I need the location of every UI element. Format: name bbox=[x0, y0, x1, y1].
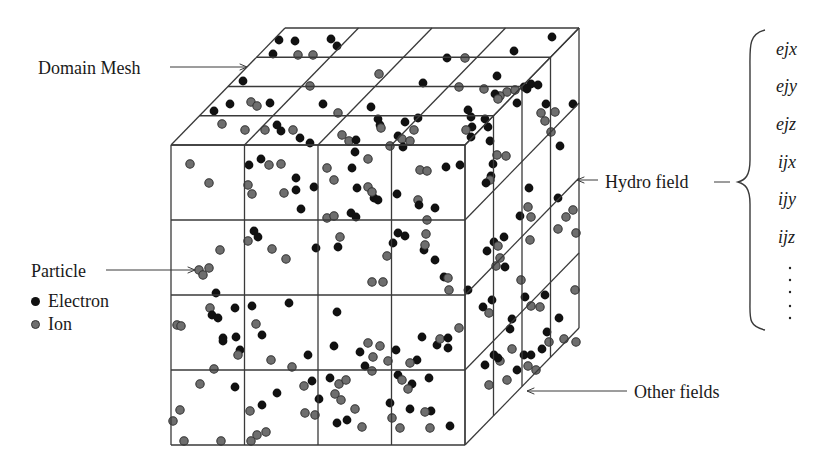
vertical-ellipsis-dot bbox=[789, 305, 791, 307]
ion-particle bbox=[337, 396, 345, 404]
ion-particle bbox=[368, 188, 376, 196]
electron-particle bbox=[304, 351, 313, 360]
electron-particle bbox=[245, 161, 254, 170]
ion-particle bbox=[196, 380, 204, 388]
electron-particle bbox=[226, 100, 235, 109]
electron-particle bbox=[406, 405, 415, 414]
ion-particle bbox=[338, 131, 346, 139]
ion-particle bbox=[358, 423, 366, 431]
electron-particle bbox=[538, 345, 547, 354]
electron-particle bbox=[493, 72, 502, 81]
electron-particle bbox=[393, 190, 402, 199]
legend-ion-label: Ion bbox=[48, 315, 72, 333]
electron-particle bbox=[254, 233, 263, 242]
electron-particle bbox=[431, 256, 440, 265]
electron-particle bbox=[425, 374, 434, 383]
ion-particle bbox=[455, 324, 463, 332]
ion-particle bbox=[262, 428, 270, 436]
ion-particle bbox=[526, 236, 534, 244]
ion-particle bbox=[496, 254, 504, 262]
hydro-field-ijy: ijy bbox=[778, 190, 796, 208]
ion-particle bbox=[217, 437, 225, 445]
electron-particle bbox=[446, 422, 455, 431]
domain-mesh-label: Domain Mesh bbox=[38, 59, 141, 77]
electron-particle bbox=[527, 351, 536, 360]
ion-particle bbox=[560, 335, 568, 343]
electron-particle bbox=[548, 33, 557, 42]
ion-particle bbox=[294, 51, 302, 59]
ion-particle bbox=[368, 278, 376, 286]
ion-particle bbox=[436, 335, 444, 343]
electron-particle bbox=[343, 416, 352, 425]
ion-particle bbox=[444, 274, 452, 282]
ion-particle bbox=[247, 437, 255, 445]
ion-particle bbox=[169, 417, 177, 425]
electron-particle bbox=[248, 302, 257, 311]
ion-particle bbox=[406, 137, 414, 145]
electron-particle bbox=[401, 232, 410, 241]
ion-particle bbox=[176, 406, 184, 414]
vertical-ellipsis-dot bbox=[789, 291, 791, 293]
ion-particle bbox=[216, 246, 224, 254]
hydro-field-label: Hydro field bbox=[605, 173, 688, 191]
ion-particle bbox=[485, 309, 493, 317]
electron-particle bbox=[333, 308, 342, 317]
ion-particle bbox=[375, 70, 383, 78]
electron-particle bbox=[444, 344, 453, 353]
ion-particle bbox=[494, 242, 502, 250]
ion-particle bbox=[323, 164, 331, 172]
ion-particle bbox=[252, 320, 260, 328]
ion-particle bbox=[205, 264, 213, 272]
electron-particle bbox=[219, 337, 228, 346]
ion-particle bbox=[551, 108, 559, 116]
ion-particle bbox=[265, 161, 273, 169]
ion-particle bbox=[383, 252, 391, 260]
ion-particle bbox=[246, 407, 254, 415]
electron-particle bbox=[231, 383, 240, 392]
electron-particle bbox=[513, 366, 522, 375]
hydro-field-ijz: ijz bbox=[778, 228, 795, 246]
ion-dot-icon bbox=[31, 320, 40, 329]
ion-particle bbox=[571, 286, 579, 294]
ion-particle bbox=[537, 109, 545, 117]
ion-particle bbox=[234, 351, 242, 359]
electron-particle bbox=[315, 395, 324, 404]
electron-particle bbox=[296, 134, 305, 143]
ion-particle bbox=[554, 225, 562, 233]
electron-particle bbox=[312, 244, 321, 253]
ion-particle bbox=[398, 376, 406, 384]
vertical-ellipsis-dot bbox=[789, 267, 791, 269]
electron-particle bbox=[266, 99, 275, 108]
electron-particle bbox=[483, 247, 492, 256]
ion-particle bbox=[289, 126, 297, 134]
electron-particle bbox=[481, 361, 490, 370]
electron-particle bbox=[510, 47, 519, 56]
electron-particle bbox=[231, 304, 240, 313]
ion-particle bbox=[210, 365, 218, 373]
ion-particle bbox=[545, 338, 553, 346]
ion-particle bbox=[218, 120, 226, 128]
ion-particle bbox=[517, 276, 525, 284]
other-fields-label: Other fields bbox=[634, 383, 719, 401]
ion-particle bbox=[282, 255, 290, 263]
electron-particle bbox=[352, 136, 361, 145]
electron-particle bbox=[554, 194, 563, 203]
ion-particle bbox=[342, 376, 350, 384]
electron-particle bbox=[569, 100, 578, 109]
ion-particle bbox=[445, 286, 453, 294]
ion-particle bbox=[502, 152, 510, 160]
electron-particle bbox=[513, 99, 522, 108]
electron-particle bbox=[431, 204, 440, 213]
ion-particle bbox=[524, 362, 532, 370]
electron-particle bbox=[212, 289, 221, 298]
electron-particle bbox=[319, 100, 328, 109]
ion-particle bbox=[508, 345, 516, 353]
ion-particle bbox=[280, 189, 288, 197]
electron-particle bbox=[389, 239, 398, 248]
electron-particle bbox=[356, 348, 365, 357]
ion-particle bbox=[277, 160, 285, 168]
ion-particle bbox=[186, 160, 194, 168]
electron-particle bbox=[399, 143, 408, 152]
ion-particle bbox=[379, 278, 387, 286]
electron-particle bbox=[285, 299, 294, 308]
